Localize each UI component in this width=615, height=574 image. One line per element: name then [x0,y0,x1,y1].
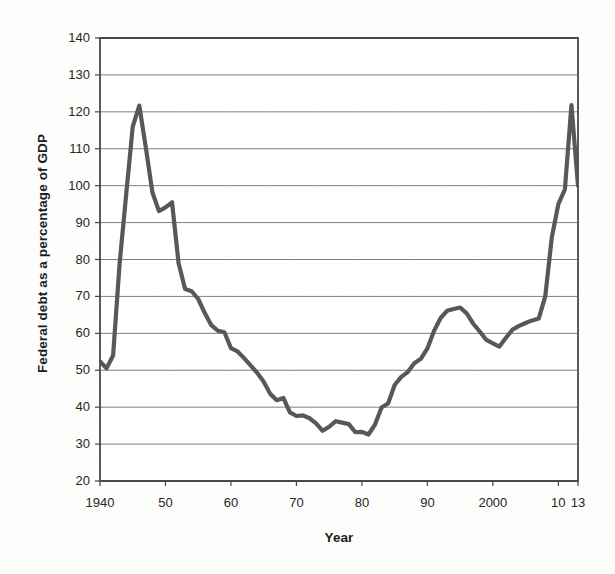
y-tick-label: 40 [46,399,90,414]
x-tick-label: 13 [555,495,601,510]
y-tick-label: 100 [46,178,90,193]
y-tick-label: 70 [46,288,90,303]
x-tick-label: 80 [339,495,385,510]
y-tick-label: 120 [46,104,90,119]
y-tick-label: 80 [46,252,90,267]
x-tick-label: 1940 [77,495,123,510]
x-axis-title: Year [100,530,578,545]
chart-figure: 2030405060708090100110120130140 19405060… [0,0,615,574]
y-tick-label: 20 [46,473,90,488]
x-tick-label: 2000 [470,495,516,510]
y-tick-label: 110 [46,141,90,156]
chart-plot-svg [0,0,615,574]
y-tick-label: 30 [46,436,90,451]
x-tick-label: 90 [404,495,450,510]
x-tick-label: 60 [208,495,254,510]
y-tick-label: 50 [46,362,90,377]
y-axis-title: Federal debt as a percentage of GDP [35,104,50,404]
y-tick-label: 140 [46,30,90,45]
y-tick-label: 60 [46,325,90,340]
x-tick-label: 50 [142,495,188,510]
y-tick-label: 90 [46,215,90,230]
y-tick-label: 130 [46,67,90,82]
x-tick-label: 70 [273,495,319,510]
